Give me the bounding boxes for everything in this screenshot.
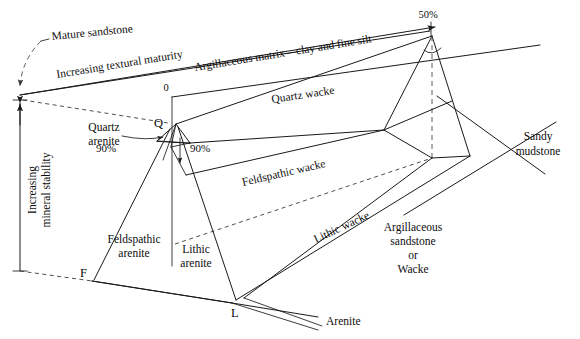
mid-node-edge <box>384 101 452 130</box>
label-argillaceous-3: or <box>408 249 418 261</box>
label-feldspathic-wacke: Feldspathic wacke <box>241 157 327 189</box>
label-mineral-stability-1: Increasing <box>26 166 39 214</box>
label-quartz-arenite-2: arenite <box>88 135 119 147</box>
top-front-edge <box>172 45 540 97</box>
label-sandy-mudstone-1: Sandy <box>524 130 553 143</box>
ground-base-line <box>92 281 318 317</box>
label-arenite: Arenite <box>326 315 360 327</box>
base-right-node <box>384 130 470 158</box>
label-argillaceous-4: Wacke <box>398 263 429 275</box>
label-feldspathic-arenite-2: arenite <box>118 247 149 259</box>
label-feldspathic-arenite-1: Feldspathic <box>107 233 160 246</box>
label-ninety-right: 90% <box>190 142 210 154</box>
label-fifty-percent: 50% <box>418 9 438 20</box>
label-argillaceous-1: Argillaceous <box>384 221 443 234</box>
mature-sandstone-pointer <box>20 39 49 86</box>
label-quartz-wacke: Quartz wacke <box>271 84 336 105</box>
vertex-label-l: L <box>231 306 239 320</box>
label-sandy-mudstone-2: mudstone <box>516 145 561 157</box>
mineral-stability-axis <box>13 100 27 271</box>
sandstone-classification-diagram: Mature sandstone Increasing textural mat… <box>0 0 580 339</box>
label-textural-maturity: Increasing textural maturity <box>55 48 183 81</box>
apex-angle-arc <box>424 48 441 53</box>
origin-to-q-dashed <box>23 100 168 123</box>
label-mature-sandstone: Mature sandstone <box>51 22 133 42</box>
arenite-pointer-lines <box>232 298 322 330</box>
label-argillaceous-2: sandstone <box>390 235 435 247</box>
vertex-label-f: F <box>80 266 87 280</box>
label-lithic-arenite-1: Lithic <box>182 243 209 255</box>
label-lithic-arenite-2: arenite <box>180 257 211 269</box>
label-quartz-arenite-1: Quartz <box>88 121 119 133</box>
quartz-arenite-pointer <box>122 136 163 139</box>
label-mineral-stability-2: mineral stability <box>40 152 53 227</box>
label-lithic-wacke: Lithic wacke <box>312 209 371 245</box>
vertex-label-q: Q <box>154 116 163 130</box>
label-zero: 0 <box>163 82 168 93</box>
label-matrix-axis: Argillaceous matrix—clay and fine silt <box>193 32 373 74</box>
